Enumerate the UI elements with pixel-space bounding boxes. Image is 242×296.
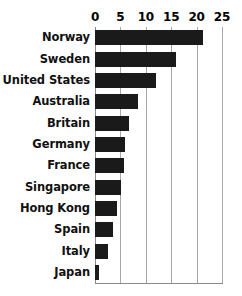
category-label-sweden: Sweden: [0, 52, 90, 67]
bar-hong-kong: [95, 201, 117, 216]
bar-norway: [95, 30, 203, 45]
x-tick-label-5: 5: [116, 10, 124, 24]
bar-france: [95, 158, 124, 173]
bar-row: [95, 116, 222, 131]
category-label-hong-kong: Hong Kong: [0, 201, 90, 216]
category-label-france: France: [0, 158, 90, 173]
bar-britain: [95, 116, 129, 131]
category-label-germany: Germany: [0, 137, 90, 152]
x-tick-label-25: 25: [214, 10, 230, 24]
bar-row: [95, 265, 222, 280]
plot-area: [95, 27, 222, 283]
bar-chart: 0510152025 NorwaySwedenUnited StatesAust…: [0, 0, 242, 296]
x-tick-label-20: 20: [188, 10, 204, 24]
category-label-singapore: Singapore: [0, 180, 90, 195]
bar-row: [95, 52, 222, 67]
bar-sweden: [95, 52, 176, 67]
x-axis-baseline: [95, 283, 223, 284]
x-tick-label-0: 0: [91, 10, 99, 24]
x-tick-label-10: 10: [138, 10, 154, 24]
gridline-25: [222, 27, 223, 283]
x-tick-label-15: 15: [163, 10, 179, 24]
bar-singapore: [95, 180, 121, 195]
bar-row: [95, 73, 222, 88]
bar-row: [95, 94, 222, 109]
y-axis-category-labels: NorwaySwedenUnited StatesAustraliaBritai…: [0, 27, 90, 283]
bar-row: [95, 244, 222, 259]
bar-australia: [95, 94, 138, 109]
category-label-united-states: United States: [0, 73, 90, 88]
bar-row: [95, 201, 222, 216]
bar-row: [95, 137, 222, 152]
bar-united-states: [95, 73, 156, 88]
bars-layer: [95, 27, 222, 283]
category-label-italy: Italy: [0, 244, 90, 259]
bar-row: [95, 158, 222, 173]
bar-row: [95, 30, 222, 45]
category-label-japan: Japan: [0, 265, 90, 280]
category-label-britain: Britain: [0, 116, 90, 131]
x-axis-tick-labels: 0510152025: [0, 10, 242, 26]
bar-japan: [95, 265, 99, 280]
category-label-spain: Spain: [0, 222, 90, 237]
category-label-australia: Australia: [0, 94, 90, 109]
bar-germany: [95, 137, 125, 152]
bar-italy: [95, 244, 108, 259]
bar-row: [95, 222, 222, 237]
bar-row: [95, 180, 222, 195]
bar-spain: [95, 222, 113, 237]
category-label-norway: Norway: [0, 30, 90, 45]
